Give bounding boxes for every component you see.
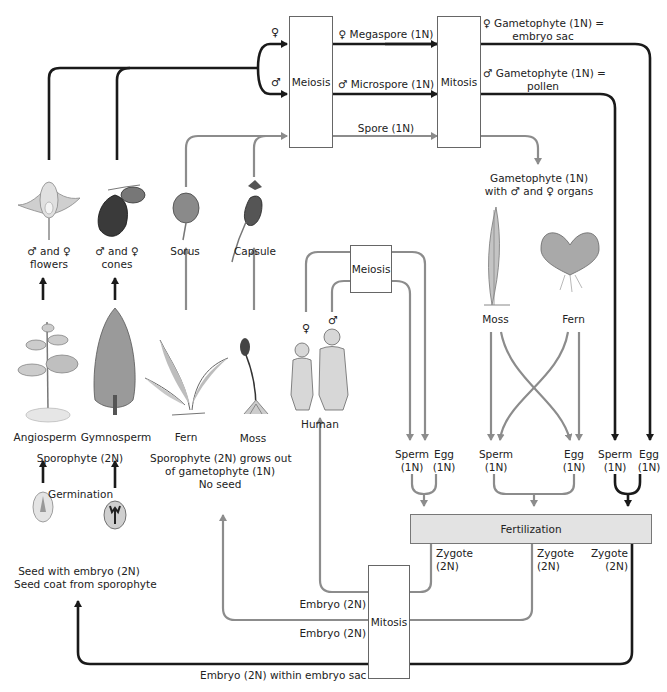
moss-sporophyte-illustration [240, 338, 268, 414]
mitosis-box-bottom: Mitosis [368, 565, 410, 679]
human-label: Human [295, 418, 345, 431]
gametophyte-line1: Gametophyte (1N) [474, 172, 604, 185]
germination-label: Germination [48, 488, 112, 501]
human-female-symbol: ♀ [302, 322, 310, 335]
human-male-symbol: ♂ [328, 314, 338, 327]
zygote-ploidy: (2N) [588, 560, 628, 573]
sorus-label: Sorus [160, 245, 210, 258]
spore-plant-flow-lines [186, 136, 579, 620]
zygote-seed: Zygote (2N) [588, 547, 628, 573]
angiosperm-illustration [18, 322, 78, 422]
seed-label: Seed with embryo (2N) Seed coat from spo… [14, 565, 144, 591]
flowers-line1: ♂ and ♀ [14, 245, 84, 258]
meiosis-box-human: Meiosis [350, 245, 392, 293]
embryo-human-label: Embryo (2N) [290, 598, 366, 611]
fern-gametophyte-illustration [541, 233, 599, 292]
gamete-ploidy: (1N) [432, 461, 456, 474]
spore-label: Spore (1N) [337, 122, 435, 135]
gamete-ploidy: (1N) [598, 461, 632, 474]
gamete-seed-egg: Egg (1N) [636, 448, 662, 474]
gamete-human-sperm: Sperm (1N) [394, 448, 430, 474]
cones-label: ♂ and ♀ cones [82, 245, 152, 271]
gymnosperm-label: Gymnosperm [80, 431, 152, 444]
sporophyte-grows-line2: of gametophyte (1N) [150, 465, 290, 478]
male-symbol-top: ♂ [271, 76, 281, 89]
gamete-name: Egg [432, 448, 456, 461]
flower-illustration [18, 182, 80, 240]
gamete-name: Sperm [478, 448, 514, 461]
cones-line2: cones [82, 258, 152, 271]
zygote-plant: Zygote (2N) [537, 547, 574, 573]
capsule-label: Capsule [230, 245, 280, 258]
moss-gametophyte-illustration [484, 207, 510, 305]
gamete-plant-sperm: Sperm (1N) [478, 448, 514, 474]
male-gametophyte-line2: pollen [483, 80, 603, 93]
gamete-name: Sperm [598, 448, 632, 461]
embryo-plant-label: Embryo (2N) [290, 627, 366, 640]
cone-illustration [98, 185, 145, 236]
zygote-name: Zygote [537, 547, 574, 560]
sorus-illustration [173, 193, 199, 240]
female-symbol-top: ♀ [271, 26, 279, 39]
gamete-ploidy: (1N) [394, 461, 430, 474]
gamete-ploidy: (1N) [636, 461, 662, 474]
gamete-human-egg: Egg (1N) [432, 448, 456, 474]
angiosperm-label: Angiosperm [10, 431, 80, 444]
flowers-label: ♂ and ♀ flowers [14, 245, 84, 271]
seed-line1: Seed with embryo (2N) [14, 565, 144, 578]
gymnosperm-illustration [94, 308, 135, 415]
sporophyte-label: Sporophyte (2N) [30, 452, 130, 465]
gametophyte-fern-label: Fern [556, 313, 591, 326]
flowers-line2: flowers [14, 258, 84, 271]
seed-line2: Seed coat from sporophyte [14, 578, 144, 591]
mitosis-box-top: Mitosis [437, 16, 481, 148]
fertilization-box: Fertilization [410, 514, 652, 544]
gamete-name: Egg [636, 448, 662, 461]
sporophyte-grows-line3: No seed [150, 478, 290, 491]
zygote-human: Zygote (2N) [436, 547, 473, 573]
cones-line1: ♂ and ♀ [82, 245, 152, 258]
human-illustration [291, 329, 348, 410]
gamete-name: Sperm [394, 448, 430, 461]
female-gametophyte-label: ♀ Gametophyte (1N) = embryo sac [483, 17, 603, 43]
male-gametophyte-line1: ♂ Gametophyte (1N) = [483, 67, 603, 80]
gametophyte-label: Gametophyte (1N) with ♂ and ♀ organs [474, 172, 604, 198]
embryo-seed-label: Embryo (2N) within embryo sac [200, 669, 366, 682]
meiosis-box-top: Meiosis [289, 16, 333, 148]
female-gametophyte-line2: embryo sac [483, 30, 603, 43]
zygote-ploidy: (2N) [436, 560, 473, 573]
zygote-ploidy: (2N) [537, 560, 574, 573]
gamete-plant-egg: Egg (1N) [560, 448, 588, 474]
microspore-label: ♂ Microspore (1N) [336, 78, 436, 91]
gamete-ploidy: (1N) [478, 461, 514, 474]
gamete-name: Egg [560, 448, 588, 461]
female-gametophyte-line1: ♀ Gametophyte (1N) = [483, 17, 603, 30]
gametophyte-line2: with ♂ and ♀ organs [474, 185, 604, 198]
sporophyte-grows-line1: Sporophyte (2N) grows out [150, 452, 290, 465]
gamete-seed-sperm: Sperm (1N) [598, 448, 632, 474]
gymnosperm-seed-illustration [104, 501, 126, 529]
zygote-name: Zygote [436, 547, 473, 560]
gamete-ploidy: (1N) [560, 461, 588, 474]
fern-illustration [145, 340, 228, 415]
gametophyte-moss-label: Moss [478, 313, 513, 326]
sporophyte-grows-label: Sporophyte (2N) grows out of gametophyte… [150, 452, 290, 491]
megaspore-label: ♀ Megaspore (1N) [337, 28, 435, 41]
zygote-name: Zygote [588, 547, 628, 560]
male-gametophyte-label: ♂ Gametophyte (1N) = pollen [483, 67, 603, 93]
fern-label: Fern [166, 431, 206, 444]
moss-label: Moss [233, 432, 273, 445]
